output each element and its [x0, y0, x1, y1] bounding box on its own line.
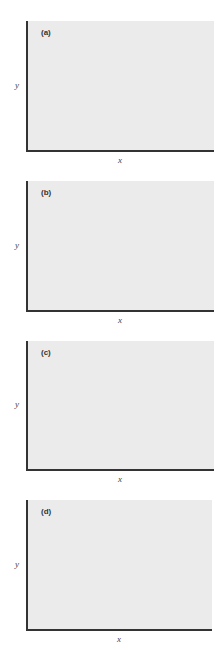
- plot-area: [26, 500, 212, 629]
- y-axis: [26, 500, 28, 630]
- x-axis: [26, 629, 212, 631]
- x-axis-label: x: [117, 634, 121, 644]
- scatter-panel-d: (d) y x: [0, 0, 222, 651]
- y-axis-label: y: [15, 559, 19, 569]
- panel-label: (d): [41, 507, 51, 516]
